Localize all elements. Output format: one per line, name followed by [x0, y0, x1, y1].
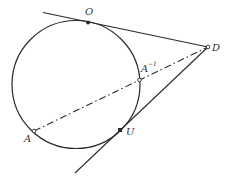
- tangent-line-O-D: [43, 13, 208, 48]
- label-A-inverse-superscript: −1: [148, 60, 157, 67]
- label-O: O: [85, 6, 93, 17]
- point-A-inverse-marker: [138, 78, 142, 82]
- point-U-marker: [118, 128, 122, 132]
- label-U: U: [126, 126, 135, 137]
- label-A-inverse: A: [140, 63, 148, 74]
- point-A-marker: [32, 129, 36, 133]
- label-A: A: [23, 133, 31, 144]
- point-O-marker: [86, 21, 90, 25]
- point-D-marker: [206, 45, 210, 49]
- label-D: D: [211, 42, 220, 53]
- secant-line-A-D: [34, 47, 208, 131]
- circle-tangent-diagram: O D A −1 A U: [0, 0, 227, 180]
